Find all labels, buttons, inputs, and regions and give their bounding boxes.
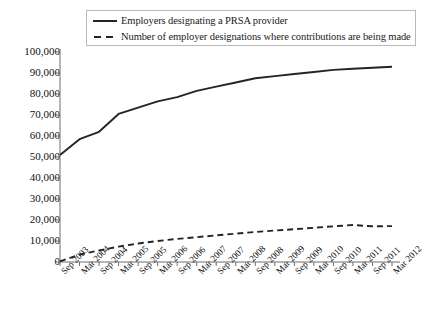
series-line-dashed — [60, 225, 392, 261]
series-line-solid — [60, 67, 392, 155]
plot-area — [0, 0, 428, 328]
line-chart: Employers designating a PRSA provider Nu… — [0, 0, 428, 328]
